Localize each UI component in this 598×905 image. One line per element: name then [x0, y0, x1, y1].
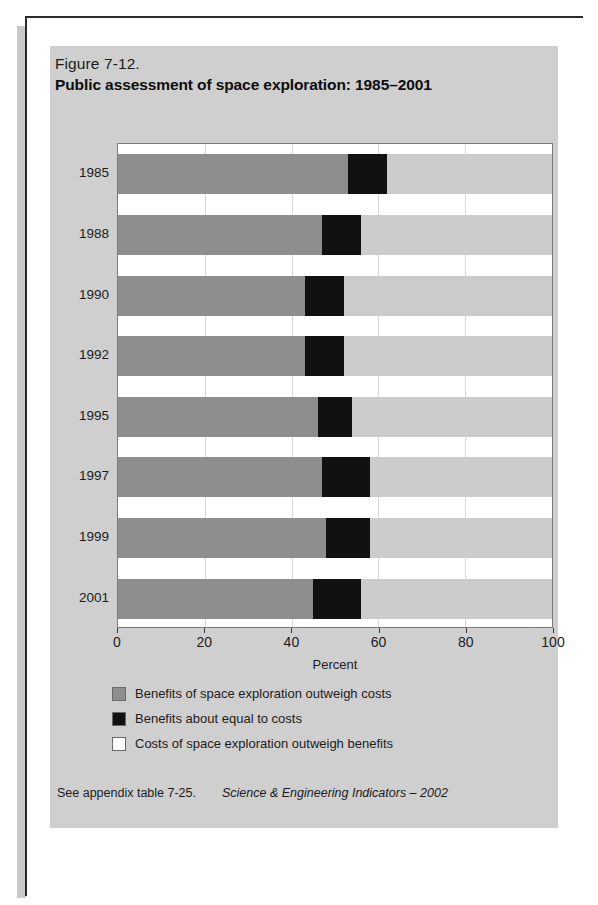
y-axis-tick-label: 1988 — [51, 226, 109, 241]
y-axis-tick-label: 1985 — [51, 165, 109, 180]
bar-segment — [348, 154, 387, 194]
figure-footer: See appendix table 7-25. Science & Engin… — [57, 786, 553, 800]
bar-segment — [118, 215, 322, 255]
bar-segment — [305, 336, 344, 376]
bar-segment — [352, 397, 552, 437]
appendix-note: See appendix table 7-25. — [57, 786, 196, 800]
legend-item: Costs of space exploration outweigh bene… — [112, 731, 532, 756]
bar-segment — [344, 276, 552, 316]
bar-segment — [318, 397, 353, 437]
bar-segment — [118, 457, 322, 497]
x-axis-tick-mark — [553, 628, 554, 633]
y-axis-tick-label: 1995 — [51, 408, 109, 423]
bar-row — [118, 276, 552, 316]
bar-segment — [118, 579, 313, 619]
legend-label: Benefits of space exploration outweigh c… — [135, 686, 392, 701]
figure-title: Public assessment of space exploration: … — [55, 76, 432, 94]
x-axis-tick-label: 20 — [196, 634, 212, 650]
bar-row — [118, 397, 552, 437]
source-citation: Science & Engineering Indicators – 2002 — [222, 786, 448, 800]
legend-item: Benefits of space exploration outweigh c… — [112, 681, 532, 706]
bar-segment — [361, 579, 552, 619]
bar-segment — [118, 397, 318, 437]
x-axis-tick-label: 40 — [284, 634, 300, 650]
legend-swatch-equal — [112, 712, 126, 726]
x-axis-tick-mark — [291, 628, 292, 633]
bar-segment — [370, 457, 552, 497]
bar-segment — [370, 518, 552, 558]
bar-segment — [326, 518, 369, 558]
x-axis-title: Percent — [117, 657, 553, 672]
legend-swatch-cost — [112, 737, 126, 751]
bar-row — [118, 457, 552, 497]
bar-segment — [118, 276, 305, 316]
y-axis-tick-label: 1999 — [51, 529, 109, 544]
bar-row — [118, 518, 552, 558]
legend-item: Benefits about equal to costs — [112, 706, 532, 731]
bar-segment — [322, 457, 370, 497]
bar-segment — [313, 579, 361, 619]
bar-row — [118, 336, 552, 376]
x-axis-tick-mark — [466, 628, 467, 633]
y-axis-tick-label: 1997 — [51, 468, 109, 483]
x-axis-tick-label: 100 — [541, 634, 564, 650]
bar-segment — [344, 336, 552, 376]
x-axis-tick-label: 80 — [458, 634, 474, 650]
bar-row — [118, 579, 552, 619]
y-axis-tick-label: 1992 — [51, 347, 109, 362]
bar-segment — [305, 276, 344, 316]
x-axis-tick-label: 0 — [113, 634, 121, 650]
bar-segment — [361, 215, 552, 255]
x-axis-tick-mark — [117, 628, 118, 633]
x-axis-tick-label: 60 — [371, 634, 387, 650]
legend-label: Costs of space exploration outweigh bene… — [135, 736, 393, 751]
x-axis-tick-mark — [204, 628, 205, 633]
bar-segment — [387, 154, 552, 194]
chart-legend: Benefits of space exploration outweigh c… — [112, 681, 532, 756]
y-axis-tick-label: 2001 — [51, 590, 109, 605]
y-axis-tick-label: 1990 — [51, 287, 109, 302]
legend-label: Benefits about equal to costs — [135, 711, 302, 726]
bar-row — [118, 154, 552, 194]
x-axis — [117, 628, 553, 634]
legend-swatch-benefit — [112, 687, 126, 701]
bar-segment — [118, 518, 326, 558]
bar-segment — [118, 154, 348, 194]
bar-segment — [322, 215, 361, 255]
bar-segment — [118, 336, 305, 376]
bar-row — [118, 215, 552, 255]
figure-number: Figure 7-12. — [55, 55, 140, 73]
chart-plot-area — [117, 143, 553, 628]
x-axis-tick-mark — [379, 628, 380, 633]
